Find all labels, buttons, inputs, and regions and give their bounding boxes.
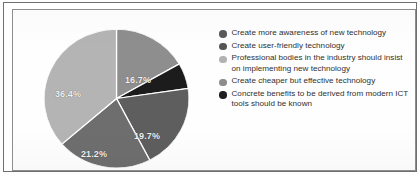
legend-marker-circle-icon-2 — [219, 56, 227, 64]
legend-item-4: Concrete benefits to be derived from mod… — [219, 89, 417, 109]
legend-item-3: Create cheaper but effective technology — [219, 76, 417, 86]
legend-marker-circle-icon-0 — [219, 30, 227, 38]
legend-item-0: Create more awareness of new technology — [219, 28, 417, 38]
figure-root: 16.7% 19.7% 21.2% 36.4% Create more awar… — [0, 0, 420, 175]
pie-slice-label-0: 16.7% — [125, 76, 151, 85]
figure-outer-border: 16.7% 19.7% 21.2% 36.4% Create more awar… — [3, 2, 417, 172]
pie-slice-label-3: 21.2% — [81, 150, 107, 159]
pie-chart: 16.7% 19.7% 21.2% 36.4% — [31, 22, 211, 174]
legend-label-3: Create cheaper but effective technology — [232, 76, 376, 86]
legend-marker-circle-icon-1 — [219, 43, 227, 51]
figure-inner-border: 16.7% 19.7% 21.2% 36.4% Create more awar… — [12, 9, 416, 171]
legend-label-4: Concrete benefits to be derived from mod… — [232, 89, 414, 109]
legend-label-1: Create user-friendly technology — [232, 41, 345, 51]
chart-legend: Create more awareness of new technology … — [219, 28, 417, 168]
legend-label-0: Create more awareness of new technology — [232, 28, 387, 38]
pie-slice-label-4: 36.4% — [55, 90, 81, 99]
legend-item-1: Create user-friendly technology — [219, 41, 417, 51]
legend-item-2: Professional bodies in the industry shou… — [219, 53, 417, 73]
legend-label-2: Professional bodies in the industry shou… — [232, 53, 414, 73]
pie-slice-label-2: 19.7% — [134, 132, 160, 141]
legend-marker-circle-icon-4 — [219, 91, 227, 99]
chart-area: 16.7% 19.7% 21.2% 36.4% Create more awar… — [23, 18, 420, 175]
legend-marker-circle-icon-3 — [219, 79, 227, 87]
